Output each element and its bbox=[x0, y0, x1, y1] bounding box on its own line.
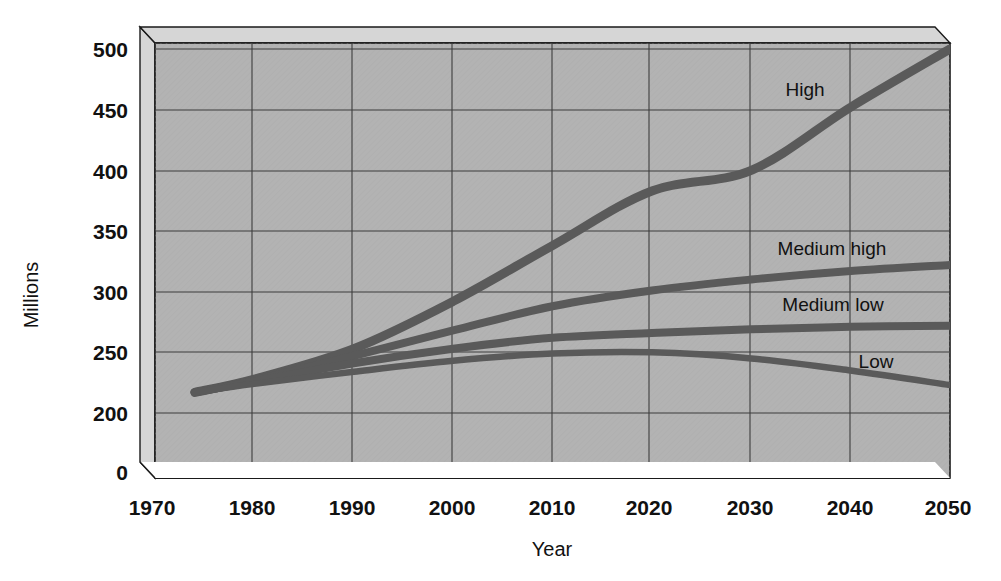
plot-left-wall bbox=[140, 27, 155, 478]
x-tick-2010: 2010 bbox=[529, 496, 576, 519]
series-label-low: Low bbox=[859, 351, 894, 372]
plot-base-cut bbox=[140, 462, 950, 478]
series-label-medium-high: Medium high bbox=[778, 238, 887, 259]
x-tick-2050: 2050 bbox=[925, 496, 972, 519]
plot-top-wall bbox=[140, 27, 950, 43]
x-tick-1980: 1980 bbox=[229, 496, 276, 519]
chart-figure: 500 450 400 350 300 250 200 0 Millions 1… bbox=[0, 0, 1001, 581]
y-axis-tick-labels: 500 450 400 350 300 250 200 0 bbox=[93, 38, 128, 484]
y-tick-0: 0 bbox=[116, 461, 128, 484]
series-label-medium-low: Medium low bbox=[782, 294, 884, 315]
x-axis-tick-labels: 1970 1980 1990 2000 2010 2020 2030 2040 … bbox=[129, 496, 972, 519]
series-label-high: High bbox=[785, 79, 824, 100]
y-tick-200: 200 bbox=[93, 402, 128, 425]
x-axis-title: Year bbox=[532, 538, 573, 560]
x-tick-2000: 2000 bbox=[429, 496, 476, 519]
y-tick-500: 500 bbox=[93, 38, 128, 61]
x-tick-2020: 2020 bbox=[626, 496, 673, 519]
x-tick-2030: 2030 bbox=[727, 496, 774, 519]
y-axis-title: Millions bbox=[20, 262, 42, 329]
y-tick-350: 350 bbox=[93, 220, 128, 243]
x-tick-1990: 1990 bbox=[329, 496, 376, 519]
population-projection-line-chart: 500 450 400 350 300 250 200 0 Millions 1… bbox=[0, 0, 1001, 581]
y-tick-250: 250 bbox=[93, 341, 128, 364]
y-tick-450: 450 bbox=[93, 99, 128, 122]
x-tick-1970: 1970 bbox=[129, 496, 176, 519]
y-tick-400: 400 bbox=[93, 160, 128, 183]
y-tick-300: 300 bbox=[93, 281, 128, 304]
x-tick-2040: 2040 bbox=[827, 496, 874, 519]
